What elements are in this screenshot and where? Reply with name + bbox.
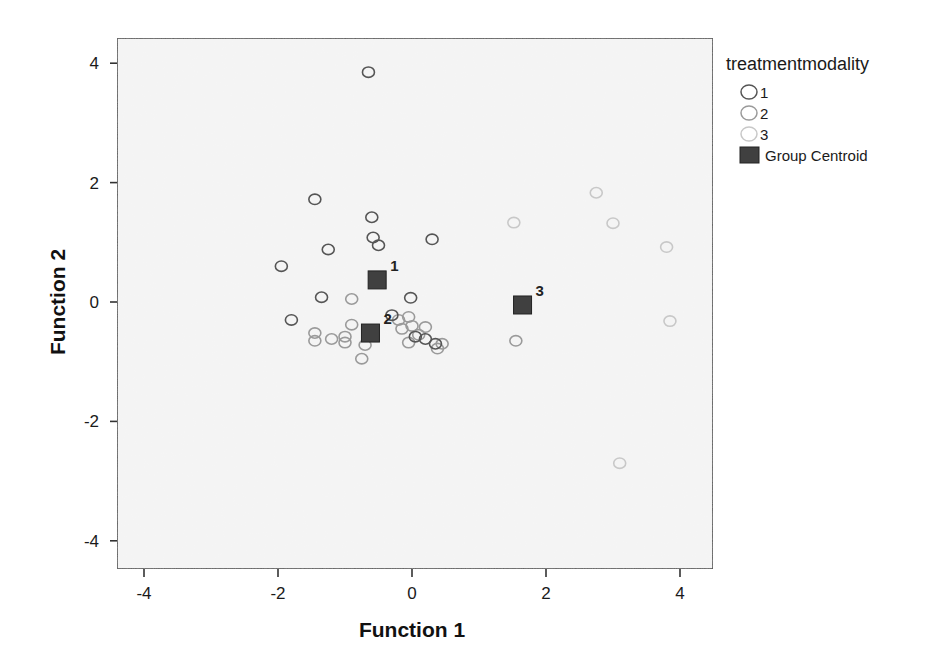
y-tick-label: -4 — [84, 532, 99, 551]
legend-title: treatmentmodality — [726, 54, 869, 74]
plot-area — [117, 38, 713, 569]
x-tick-label: 0 — [407, 584, 416, 603]
centroid-label-2: 2 — [383, 310, 391, 327]
legend-circle-icon — [741, 85, 757, 99]
legend-label: 1 — [760, 84, 768, 101]
centroid-label-1: 1 — [390, 257, 398, 274]
legend-label: 3 — [760, 126, 768, 143]
centroid-marker-2 — [361, 324, 379, 342]
y-tick-label: -2 — [84, 412, 99, 431]
y-tick-label: 2 — [90, 174, 99, 193]
x-tick-label: -4 — [136, 584, 151, 603]
x-tick-label: 2 — [541, 584, 550, 603]
legend-square-icon — [740, 147, 759, 163]
x-axis: -4-2024 — [136, 569, 684, 603]
centroid-marker-3 — [514, 296, 532, 314]
x-axis-title: Function 1 — [359, 618, 465, 641]
x-tick-label: -2 — [270, 584, 285, 603]
y-axis-title: Function 2 — [46, 249, 69, 355]
y-tick-label: 4 — [90, 54, 99, 73]
centroid-label-3: 3 — [536, 282, 544, 299]
legend-label: Group Centroid — [765, 147, 868, 164]
legend-circle-icon — [741, 106, 757, 120]
x-tick-label: 4 — [675, 584, 684, 603]
y-axis: 420-2-4 — [84, 54, 117, 551]
discriminant-scatter-chart: 420-2-4 -4-2024 Function 1 Function 2 12… — [0, 0, 947, 667]
legend-label: 2 — [760, 105, 768, 122]
legend-circle-icon — [741, 127, 757, 141]
legend: treatmentmodality 123Group Centroid — [726, 54, 869, 164]
centroid-marker-1 — [368, 271, 386, 289]
y-tick-label: 0 — [90, 293, 99, 312]
